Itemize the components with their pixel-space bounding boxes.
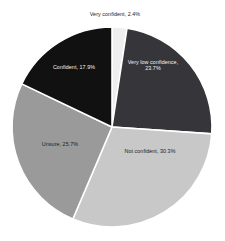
pie-slice-group (12, 27, 212, 227)
pie-chart-canvas (0, 0, 225, 241)
pie-slice-very-low-confidence (112, 28, 212, 134)
pie-chart: Very confident, 2.4% Very low confidence… (0, 0, 225, 241)
